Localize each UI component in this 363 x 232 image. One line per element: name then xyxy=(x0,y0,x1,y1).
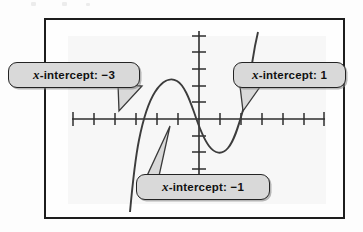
callout-bottom-text: x-intercept: −1 xyxy=(162,180,244,194)
callout-bottom-value: −1 xyxy=(231,181,245,193)
figure-root: x-intercept: −3 x-intercept: 1 x-interce… xyxy=(0,0,363,232)
callout-left-label: -intercept: xyxy=(40,69,102,81)
callout-x-intercept-minus-1[interactable]: x-intercept: −1 xyxy=(136,174,270,200)
callout-right-text: x-intercept: 1 xyxy=(252,68,327,82)
callout-left-value: −3 xyxy=(102,69,116,81)
scan-artifact-2 xyxy=(62,2,67,6)
scan-artifact-1 xyxy=(31,2,36,6)
callout-right-value: 1 xyxy=(320,69,327,81)
callout-bottom-label: -intercept: xyxy=(169,181,231,193)
callout-x-intercept-1[interactable]: x-intercept: 1 xyxy=(233,62,346,88)
variable-x: x xyxy=(33,67,40,82)
callout-left-text: x-intercept: −3 xyxy=(33,68,115,82)
callout-right-label: -intercept: xyxy=(259,69,321,81)
callout-x-intercept-minus-3[interactable]: x-intercept: −3 xyxy=(8,62,140,88)
variable-x: x xyxy=(252,67,259,82)
variable-x: x xyxy=(162,179,169,194)
scan-artifact-3 xyxy=(86,3,90,6)
